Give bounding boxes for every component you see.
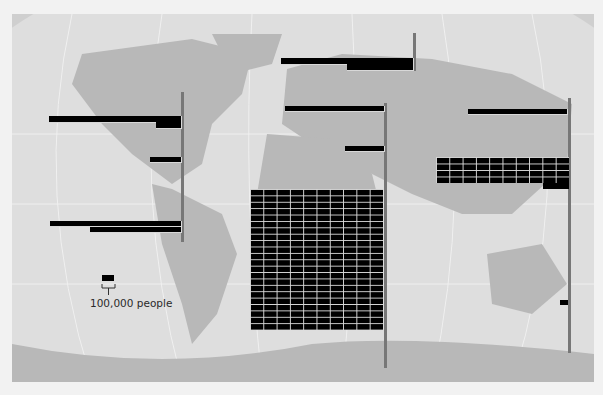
legend-label: 100,000 people [90, 297, 172, 309]
bar-blocks [543, 183, 569, 189]
leader-line [568, 98, 571, 353]
leader-line [181, 92, 184, 242]
leader-line [384, 103, 387, 368]
legend-swatch [102, 275, 114, 281]
bar-blocks [250, 189, 383, 330]
world-map: North America 1,400,000 Caribbean 240,00… [12, 14, 594, 382]
bar-blocks [436, 157, 569, 183]
bracket-icon [100, 283, 120, 297]
bar-blocks [560, 300, 568, 305]
